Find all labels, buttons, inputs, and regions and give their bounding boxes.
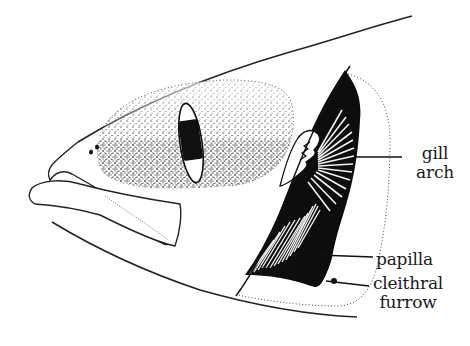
label-gill-arch-line2: arch xyxy=(404,163,466,182)
fish-head-diagram: gill arch papilla cleithral furrow xyxy=(0,0,470,346)
label-cleithral-furrow: cleithral furrow xyxy=(364,274,452,312)
nostril-icon xyxy=(89,149,93,154)
label-papilla: papilla xyxy=(376,250,433,269)
nostril-icon xyxy=(95,144,99,149)
label-cleithral-line1: cleithral xyxy=(364,274,452,293)
lower-jaw xyxy=(29,181,180,246)
label-gill-arch: gill arch xyxy=(404,144,466,182)
label-gill-arch-line1: gill xyxy=(404,144,466,163)
label-cleithral-line2: furrow xyxy=(364,293,452,312)
